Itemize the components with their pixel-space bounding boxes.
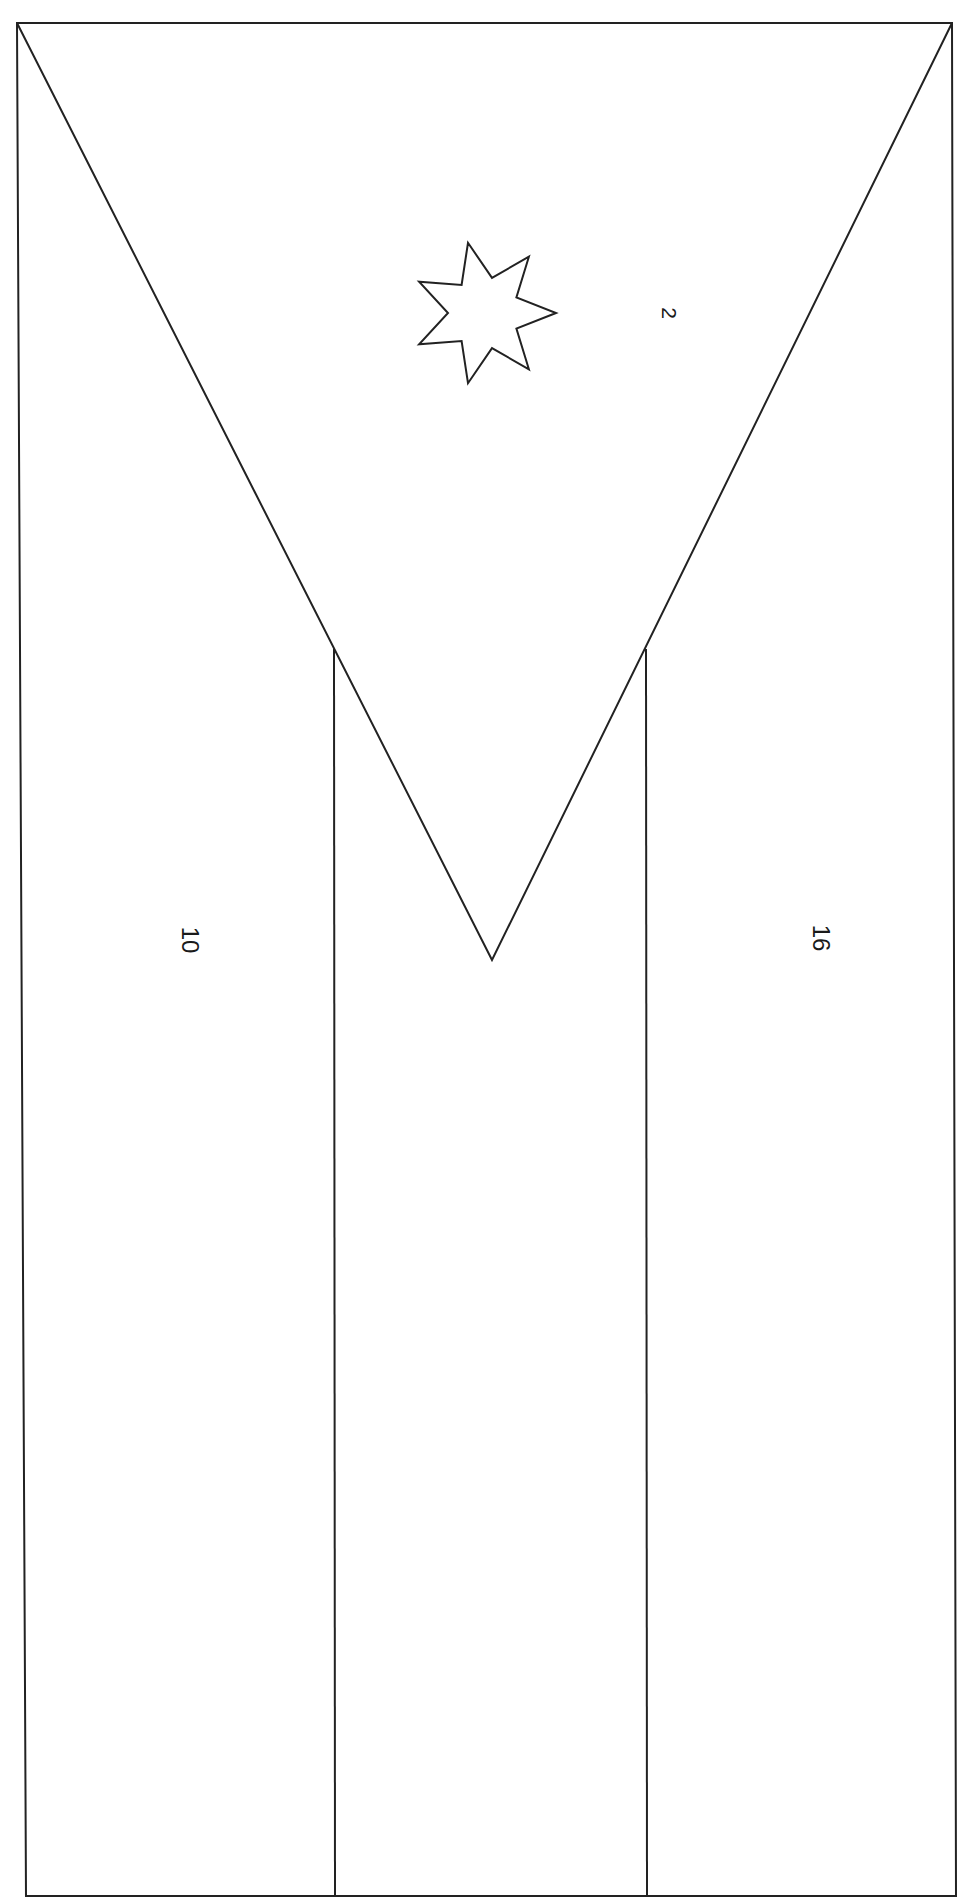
region-number-stripe-right: 16 bbox=[809, 925, 833, 952]
stripe-divider-right bbox=[646, 649, 647, 1896]
stripe-divider-left bbox=[334, 649, 335, 1896]
region-number-stripe-left: 10 bbox=[178, 927, 202, 954]
triangle-outline bbox=[17, 23, 952, 960]
seven-point-star-icon bbox=[419, 243, 556, 383]
region-number-triangle: 2 bbox=[659, 307, 680, 319]
